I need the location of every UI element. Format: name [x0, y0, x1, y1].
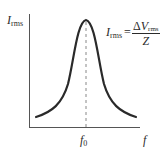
resonance-frequency-label: f0 — [80, 134, 87, 146]
equation-lhs: Irms= — [106, 26, 133, 38]
equation-fraction: ΔVrms Z — [132, 20, 160, 47]
x-axis-label: f — [143, 134, 146, 146]
y-axis-label: Irms — [7, 14, 23, 26]
